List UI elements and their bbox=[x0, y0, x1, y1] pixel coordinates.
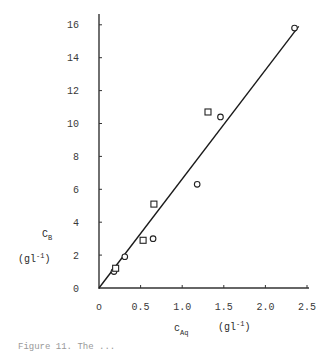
scatter-chart: 0246810121416 o0.51.01.52.02.5 CB (gl-1)… bbox=[0, 0, 334, 352]
x-tick-label: 2.0 bbox=[256, 302, 274, 313]
square-marker bbox=[151, 201, 157, 207]
y-axis-unit: (gl-1) bbox=[18, 252, 50, 265]
figure-caption: Figure 11. The ... bbox=[18, 342, 115, 352]
x-tick-label: 0.5 bbox=[132, 302, 150, 313]
circle-marker bbox=[218, 114, 224, 120]
circle-marker bbox=[150, 236, 156, 242]
circle-marker bbox=[122, 254, 128, 260]
x-ticks: o0.51.01.52.02.5 bbox=[96, 285, 316, 313]
x-tick-label: 1.0 bbox=[173, 302, 191, 313]
y-tick-label: 12 bbox=[67, 86, 79, 97]
square-marker bbox=[140, 237, 146, 243]
y-ticks: 0246810121416 bbox=[67, 20, 102, 294]
y-tick-label: 16 bbox=[67, 20, 79, 31]
x-axis-unit: (gl-1) bbox=[218, 320, 250, 333]
y-tick-label: 8 bbox=[73, 152, 79, 163]
square-marker bbox=[113, 265, 119, 271]
x-axis-label: cAq bbox=[174, 323, 188, 337]
circle-marker bbox=[194, 182, 200, 188]
y-tick-label: 2 bbox=[73, 251, 79, 262]
circle-marker bbox=[292, 25, 298, 31]
x-tick-label: 2.5 bbox=[298, 302, 316, 313]
y-axis-label: CB bbox=[42, 229, 52, 242]
y-tick-label: 14 bbox=[67, 53, 79, 64]
data-series bbox=[99, 25, 299, 288]
x-tick-label: 1.5 bbox=[215, 302, 233, 313]
square-marker bbox=[205, 109, 211, 115]
y-tick-label: 6 bbox=[73, 185, 79, 196]
fit-line bbox=[99, 26, 299, 288]
y-tick-label: 0 bbox=[73, 284, 79, 295]
y-tick-label: 4 bbox=[73, 218, 79, 229]
x-tick-label: o bbox=[96, 302, 102, 313]
y-tick-label: 10 bbox=[67, 119, 79, 130]
